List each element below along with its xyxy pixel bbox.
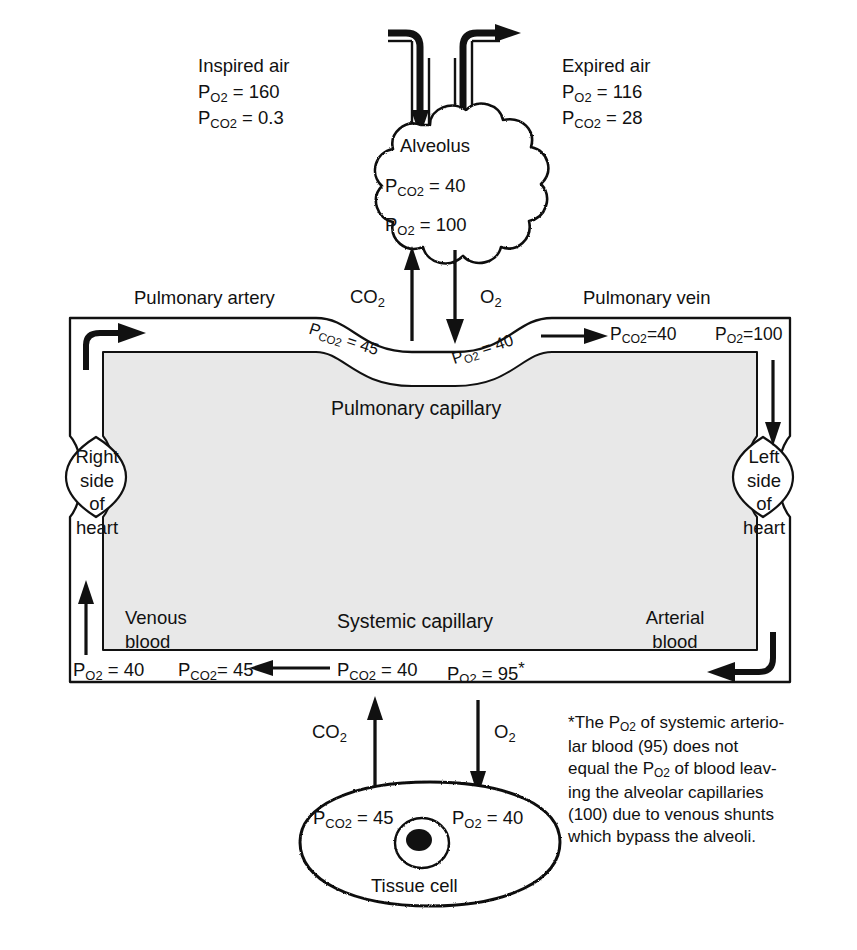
pco2-subscript-co: CO: [397, 184, 416, 199]
tissue-co2-arrow: [367, 696, 383, 795]
systemic-return-arrow: [249, 660, 330, 676]
pco2-subscript-2: 2: [417, 184, 424, 199]
tissue-o2-label: O2: [494, 720, 516, 746]
o2-subscript: 2: [508, 730, 515, 745]
footnote-seg-1: The P: [575, 713, 620, 732]
o2-text: O: [494, 721, 508, 742]
footnote-seg-4: of blood leav-: [670, 759, 777, 778]
right-heart-line-2: side: [54, 469, 140, 493]
footnote-line-6: which bypass the alveoli.: [568, 826, 836, 848]
inspired-air-po2: PO2 = 160: [198, 80, 280, 106]
po2-subscript-2: 2: [469, 671, 476, 686]
po2-symbol-p: P: [73, 659, 85, 680]
footnote-seg-3: equal the P: [568, 759, 654, 778]
bottom-right-po2: PO2 = 95*: [447, 658, 525, 688]
pco2-symbol-p: P: [313, 807, 325, 828]
po2-subscript-2: 2: [220, 90, 227, 105]
expired-air-pco2: PCO2 = 28: [562, 106, 643, 132]
alveolus-label: Alveolus: [400, 134, 470, 158]
po2-value: = 116: [597, 81, 642, 102]
po2-subscript-o: O: [397, 223, 407, 238]
inspired-air-pco2: PCO2 = 0.3: [198, 106, 284, 132]
co2-subscript: 2: [340, 730, 347, 745]
equals-sign: =: [479, 337, 494, 357]
alveolar-o2-label: O2: [480, 285, 502, 311]
pco2-symbol-p: P: [562, 107, 574, 128]
right-heart-line-1: Right: [54, 445, 140, 469]
footnote-sub-2: 2: [629, 720, 636, 734]
pco2-value: = 45: [217, 659, 254, 680]
pco2-subscript-co: CO: [210, 116, 229, 131]
po2-subscript-2: 2: [474, 816, 481, 831]
po2-value: = 95: [482, 663, 519, 684]
co2-text: CO: [312, 721, 340, 742]
po2-subscript-o: O: [574, 90, 584, 105]
pco2-subscript-co: CO: [574, 116, 593, 131]
po2-subscript-2: 2: [584, 90, 591, 105]
o2-subscript: 2: [494, 295, 501, 310]
right-heart-inflow-arrow: [78, 580, 94, 655]
left-heart-line-1: Left: [721, 445, 807, 469]
pulmonary-artery-label: Pulmonary artery: [134, 286, 275, 310]
po2-symbol-p: P: [385, 214, 397, 235]
alveolar-co2-label: CO2: [350, 285, 385, 311]
footnote-line-4: ing the alveolar capillaries: [568, 782, 836, 804]
tissue-o2-arrow: [470, 700, 486, 796]
left-heart-line-3: of: [721, 492, 807, 516]
expired-air-title: Expired air: [562, 54, 650, 78]
arterial-blood-label: Arterial blood: [620, 606, 730, 653]
co2-text: CO: [350, 286, 378, 307]
tissue-co2-label: CO2: [312, 720, 347, 746]
capillary-exit-po2: PO2=100: [715, 323, 782, 348]
pco2-value: = 40: [429, 175, 466, 196]
footnote-line-5: (100) due to venous shunts: [568, 804, 836, 826]
figure-canvas: Inspired air PO2 = 160 PCO2 = 0.3 Expire…: [0, 0, 857, 950]
pulmonary-vein-flow-arrow: [541, 328, 608, 344]
arterial-blood-line-2: blood: [620, 630, 730, 654]
alveolus-po2: PO2 = 100: [385, 213, 467, 239]
systemic-capillary-label: Systemic capillary: [337, 609, 493, 634]
pco2-subscript-co: CO: [325, 816, 344, 831]
left-heart-inflow-arrow: [765, 360, 781, 446]
footnote-text: *The PO2 of systemic arterio- lar blood …: [568, 712, 836, 848]
left-heart-line-4: heart: [721, 516, 807, 540]
cell-nucleolus: [406, 829, 432, 851]
tissue-cell-po2: PO2 = 40: [452, 806, 523, 832]
left-heart-line-2: side: [721, 469, 807, 493]
pco2-subscript-2: 2: [210, 668, 217, 683]
footnote-sub-2-2: 2: [663, 766, 670, 780]
pco2-subscript-co: CO: [622, 332, 640, 346]
po2-symbol-p: P: [715, 324, 727, 344]
pco2-symbol-p: P: [178, 659, 190, 680]
pco2-symbol-p: P: [198, 107, 210, 128]
footnote-sub-o-2: O: [654, 766, 663, 780]
po2-symbol-p: P: [562, 81, 574, 102]
pco2-subscript-2: 2: [594, 116, 601, 131]
po2-symbol-p: P: [447, 663, 459, 684]
po2-value: = 160: [233, 81, 280, 102]
pco2-value: = 40: [381, 659, 418, 680]
po2-subscript-o: O: [727, 332, 737, 346]
right-heart-line-4: heart: [54, 516, 140, 540]
venous-blood-label: Venous blood: [125, 606, 187, 653]
venous-blood-line-2: blood: [125, 630, 187, 654]
bottom-left-pco2: PCO2= 45: [178, 658, 253, 684]
po2-subscript-2: 2: [95, 668, 102, 683]
po2-symbol-p: P: [452, 807, 464, 828]
pulmonary-capillary-label: Pulmonary capillary: [331, 396, 501, 421]
right-heart-line-3: of: [54, 492, 140, 516]
pulmonary-vein-label: Pulmonary vein: [583, 286, 711, 310]
alveolar-co2-arrow: [404, 246, 420, 341]
arterial-blood-line-1: Arterial: [620, 606, 730, 630]
pco2-subscript-2: 2: [640, 332, 647, 346]
tissue-cell-label: Tissue cell: [371, 874, 458, 898]
pco2-subscript-2: 2: [230, 116, 237, 131]
pco2-subscript-2: 2: [369, 668, 376, 683]
pco2-value: = 28: [606, 107, 643, 128]
po2-subscript-o: O: [85, 668, 95, 683]
po2-value: = 100: [420, 214, 467, 235]
pco2-value: = 45: [357, 807, 394, 828]
po2-subscript-o: O: [459, 671, 469, 686]
capillary-exit-pco2: PCO2=40: [610, 323, 677, 348]
bottom-right-pco2: PCO2 = 40: [337, 658, 418, 684]
